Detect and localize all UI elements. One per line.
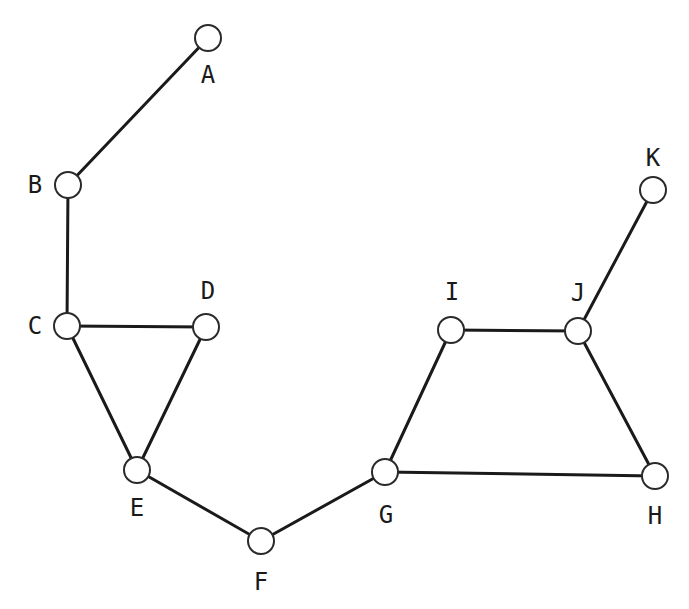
node-a — [195, 25, 221, 51]
node-label-b: B — [28, 171, 42, 199]
node-label-i: I — [445, 278, 459, 306]
graph-diagram: ABCDEFGHIJK — [0, 0, 689, 609]
node-j — [565, 318, 591, 344]
edge-d-e — [137, 327, 206, 470]
edge-a-b — [68, 38, 208, 185]
edge-j-k — [578, 190, 653, 331]
node-label-a: A — [201, 61, 216, 89]
edge-i-j — [451, 330, 578, 331]
node-label-j: J — [571, 279, 585, 307]
edge-e-f — [137, 470, 261, 541]
node-label-k: K — [646, 144, 661, 172]
edge-c-d — [67, 326, 206, 327]
node-label-h: H — [648, 502, 662, 530]
node-d — [193, 314, 219, 340]
edge-j-h — [578, 331, 655, 476]
node-i — [438, 317, 464, 343]
node-label-e: E — [130, 494, 144, 522]
edges-layer — [67, 38, 655, 541]
node-h — [642, 463, 668, 489]
node-k — [640, 177, 666, 203]
node-label-c: C — [28, 312, 42, 340]
edge-b-c — [67, 185, 68, 326]
edge-g-h — [385, 472, 655, 476]
node-b — [55, 172, 81, 198]
node-e — [124, 457, 150, 483]
edge-f-g — [261, 472, 385, 541]
node-c — [54, 313, 80, 339]
node-g — [372, 459, 398, 485]
node-label-g: G — [379, 501, 393, 529]
node-f — [248, 528, 274, 554]
node-label-d: D — [201, 277, 215, 305]
node-label-f: F — [254, 568, 268, 596]
edge-g-i — [385, 330, 451, 472]
edge-c-e — [67, 326, 137, 470]
